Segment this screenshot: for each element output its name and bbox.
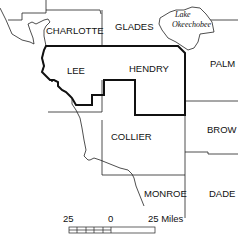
scale-label-right: 25 Miles (148, 213, 184, 224)
county-label-lee: LEE (67, 65, 85, 76)
lake-label-line1: Lake (174, 10, 191, 19)
scale-label-left: 25 (63, 213, 74, 224)
county-label-monroe: MONROE (144, 188, 187, 199)
coastline (0, 8, 144, 206)
county-label-glades: GLADES (115, 21, 154, 32)
county-map: CHARLOTTE GLADES LEE HENDRY PALM COLLIER… (0, 0, 238, 238)
county-label-palm: PALM (210, 58, 235, 69)
county-label-collier: COLLIER (111, 131, 152, 142)
scale-bar: 25 0 25 Miles (63, 213, 184, 233)
study-area-outline (42, 46, 185, 115)
lake-label-line2: Okeechobee (172, 20, 212, 29)
county-label-brow: BROW (207, 124, 237, 135)
county-label-dade: DADE (209, 188, 235, 199)
county-label-hendry: HENDRY (129, 63, 170, 74)
county-label-charlotte: CHARLOTTE (46, 25, 104, 36)
scale-label-mid: 0 (108, 213, 113, 224)
